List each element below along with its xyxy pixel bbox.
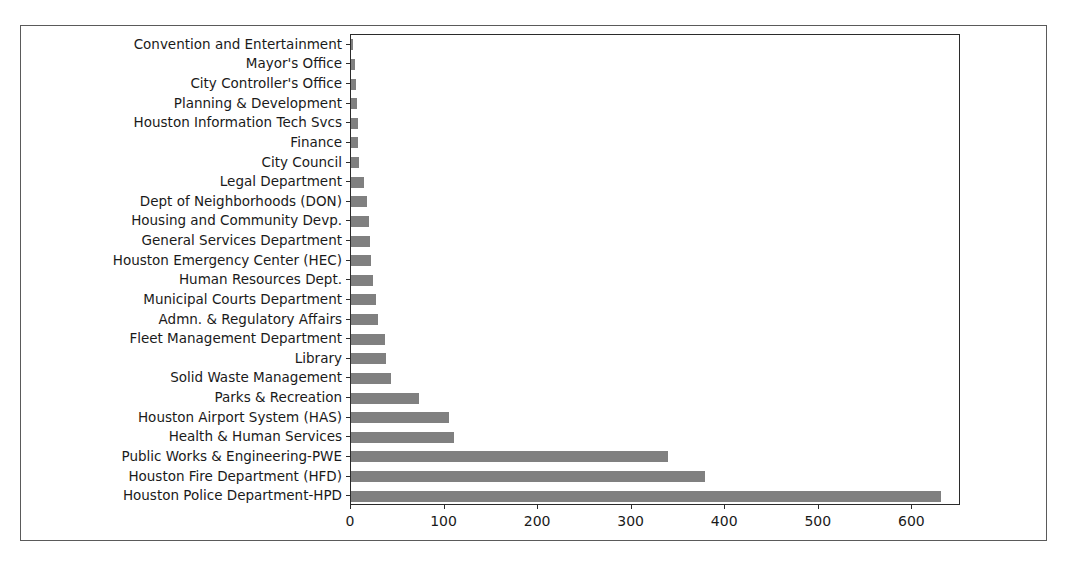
bar-row bbox=[351, 35, 353, 55]
bar bbox=[351, 334, 385, 345]
bar-row bbox=[351, 408, 449, 428]
bar-row bbox=[351, 310, 378, 330]
plot-axes bbox=[350, 34, 960, 505]
bar bbox=[351, 412, 449, 423]
bar bbox=[351, 255, 371, 266]
bar bbox=[351, 59, 355, 70]
bar bbox=[351, 177, 364, 188]
bar-row bbox=[351, 369, 391, 389]
bar bbox=[351, 432, 454, 443]
bar-row bbox=[351, 212, 369, 232]
bar bbox=[351, 39, 353, 50]
bar-row bbox=[351, 114, 358, 134]
bar-row bbox=[351, 94, 357, 114]
bar bbox=[351, 275, 373, 286]
bar-row bbox=[351, 271, 373, 291]
bar bbox=[351, 79, 356, 90]
bar bbox=[351, 314, 378, 325]
bar-row bbox=[351, 172, 364, 192]
bar-row bbox=[351, 467, 705, 487]
bar bbox=[351, 294, 376, 305]
bar bbox=[351, 236, 370, 247]
bar-row bbox=[351, 55, 355, 75]
chart-page: Convention and EntertainmentMayor's Offi… bbox=[0, 0, 1071, 565]
bar bbox=[351, 471, 705, 482]
bar bbox=[351, 373, 391, 384]
bar-row bbox=[351, 192, 367, 212]
bar-row bbox=[351, 388, 419, 408]
plot-area bbox=[351, 35, 959, 504]
bar-row bbox=[351, 447, 668, 467]
bar bbox=[351, 491, 941, 502]
bar bbox=[351, 157, 359, 168]
bar-row bbox=[351, 428, 454, 448]
bar-row bbox=[351, 329, 385, 349]
bar-row bbox=[351, 133, 358, 153]
bar bbox=[351, 196, 367, 207]
bar bbox=[351, 216, 369, 227]
bar bbox=[351, 353, 386, 364]
bar-row bbox=[351, 349, 386, 369]
bar bbox=[351, 98, 357, 109]
bar-row bbox=[351, 74, 356, 94]
bar bbox=[351, 118, 358, 129]
bar-row bbox=[351, 486, 941, 506]
bar bbox=[351, 451, 668, 462]
bar-row bbox=[351, 231, 370, 251]
bar bbox=[351, 393, 419, 404]
bar-row bbox=[351, 251, 371, 271]
bar-row bbox=[351, 153, 359, 173]
bar-row bbox=[351, 290, 376, 310]
bar bbox=[351, 137, 358, 148]
